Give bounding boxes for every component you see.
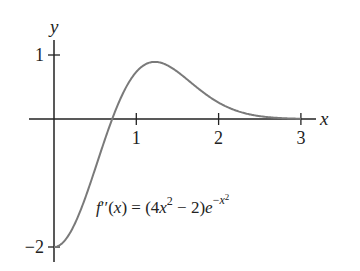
x-tick-label: 1 — [132, 128, 141, 148]
chart-canvas: 1231−2xy f′′(x) = (4x2 − 2)e−x2 — [0, 0, 360, 271]
function-curve — [54, 62, 301, 247]
tick-labels: 1231−2xy — [25, 16, 329, 257]
y-tick-label: −2 — [25, 237, 44, 257]
y-axis-label: y — [48, 16, 59, 37]
x-axis-label: x — [319, 108, 329, 129]
x-tick-label: 2 — [214, 128, 223, 148]
chart: 1231−2xy f′′(x) = (4x2 − 2)e−x2 — [0, 0, 360, 271]
function-label: f′′(x) = (4x2 − 2)e−x2 — [96, 192, 229, 217]
x-tick-label: 3 — [296, 128, 305, 148]
y-tick-label: 1 — [35, 45, 44, 65]
